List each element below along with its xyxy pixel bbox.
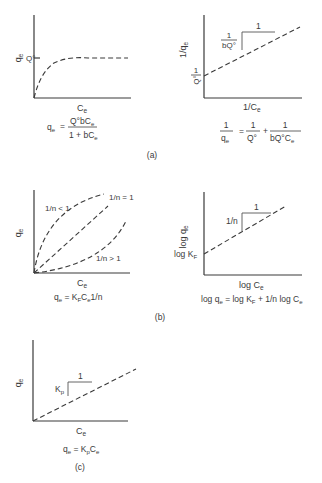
label-n-equal-1: 1/n = 1 xyxy=(109,193,134,202)
langmuir-formula: qe = Q°bCe 1 + bCe xyxy=(47,116,98,141)
linear-isotherm-line xyxy=(33,369,136,421)
intercept-numerator: 1 xyxy=(194,66,199,75)
y-axis-label: qe xyxy=(13,53,24,62)
svg-text:+: + xyxy=(263,126,268,136)
slope-triangle xyxy=(68,382,92,396)
svg-text:Q°bCe: Q°bCe xyxy=(70,116,95,127)
run-label: 1 xyxy=(78,371,83,381)
langmuir-curve xyxy=(34,58,128,98)
panel-b-freundlich-plot: 1/n < 1 1/n = 1 1/n > 1 qe Ce qe = KFCe1… xyxy=(13,190,134,303)
slope-triangle xyxy=(242,213,271,231)
slope-label: Kp xyxy=(55,384,65,395)
linear-formula: qe = KpCe xyxy=(63,444,100,455)
run-label: 1 xyxy=(256,21,261,31)
svg-text:Q°: Q° xyxy=(247,133,257,143)
svg-text:qe: qe xyxy=(47,122,56,133)
linearized-langmuir-formula: 1 qe = 1 Q° + 1 bQ°Ce xyxy=(220,120,301,144)
panel-c-caption: (c) xyxy=(75,462,85,472)
slope-denominator: bQ° xyxy=(222,41,236,50)
panel-a-linearized-langmuir-plot: 1 1 bQ° 1 Q° 1/qe 1/Ce 1 qe = 1 Q° + 1 b… xyxy=(178,15,302,144)
y-axis-label: qe xyxy=(13,228,24,237)
svg-text:=: = xyxy=(239,126,244,136)
panel-b-caption: (b) xyxy=(155,312,166,322)
regression-line xyxy=(204,27,300,76)
panel-a-langmuir-plot: qe Q° Ce qe = Q°bCe 1 + bCe xyxy=(13,15,131,141)
panel-c-linear-plot: 1 Kp qe Ce qe = KpCe xyxy=(13,340,136,455)
x-axis-label: Ce xyxy=(76,426,87,437)
x-axis-label: log Ce xyxy=(239,280,264,291)
q0-tick-label: Q° xyxy=(26,54,35,63)
adsorption-isotherms-figure: qe Q° Ce qe = Q°bCe 1 + bCe 1 1 bQ° 1 Q°… xyxy=(0,0,322,483)
svg-text:1: 1 xyxy=(283,120,288,130)
freundlich-formula: qe = KFCe1/n xyxy=(54,292,103,303)
linearized-freundlich-formula: log qe = log KF + 1/n log Ce xyxy=(201,294,303,305)
y-axis-label: log qe xyxy=(178,225,189,249)
panel-b-linearized-freundlich-plot: 1 1/n log KF log qe log Ce log qe = log … xyxy=(174,192,303,305)
label-n-greater-than-1: 1/n > 1 xyxy=(96,254,121,263)
svg-text:1 + bCe: 1 + bCe xyxy=(69,130,98,141)
run-label: 1 xyxy=(254,202,259,212)
slope-label: 1/n xyxy=(226,216,238,226)
slope-numerator: 1 xyxy=(227,31,232,40)
curve-n-greater-than-1 xyxy=(34,221,126,273)
y-axis-label: 1/qe xyxy=(178,42,189,59)
intercept-label: log KF xyxy=(174,249,197,260)
label-n-less-than-1: 1/n < 1 xyxy=(45,204,70,213)
x-axis-label: 1/Ce xyxy=(243,102,261,113)
svg-text:1: 1 xyxy=(251,120,256,130)
slope-triangle xyxy=(242,32,275,50)
svg-text:qe: qe xyxy=(221,133,230,144)
svg-text:bQ°Ce: bQ°Ce xyxy=(270,133,295,144)
svg-text:1: 1 xyxy=(224,120,229,130)
x-axis-label: Ce xyxy=(77,103,88,114)
panel-a-caption: (a) xyxy=(147,150,158,160)
x-axis-label: Ce xyxy=(77,278,88,289)
svg-text:=: = xyxy=(60,121,65,131)
intercept-denominator: Q° xyxy=(192,76,201,85)
y-axis-label: qe xyxy=(13,378,24,387)
